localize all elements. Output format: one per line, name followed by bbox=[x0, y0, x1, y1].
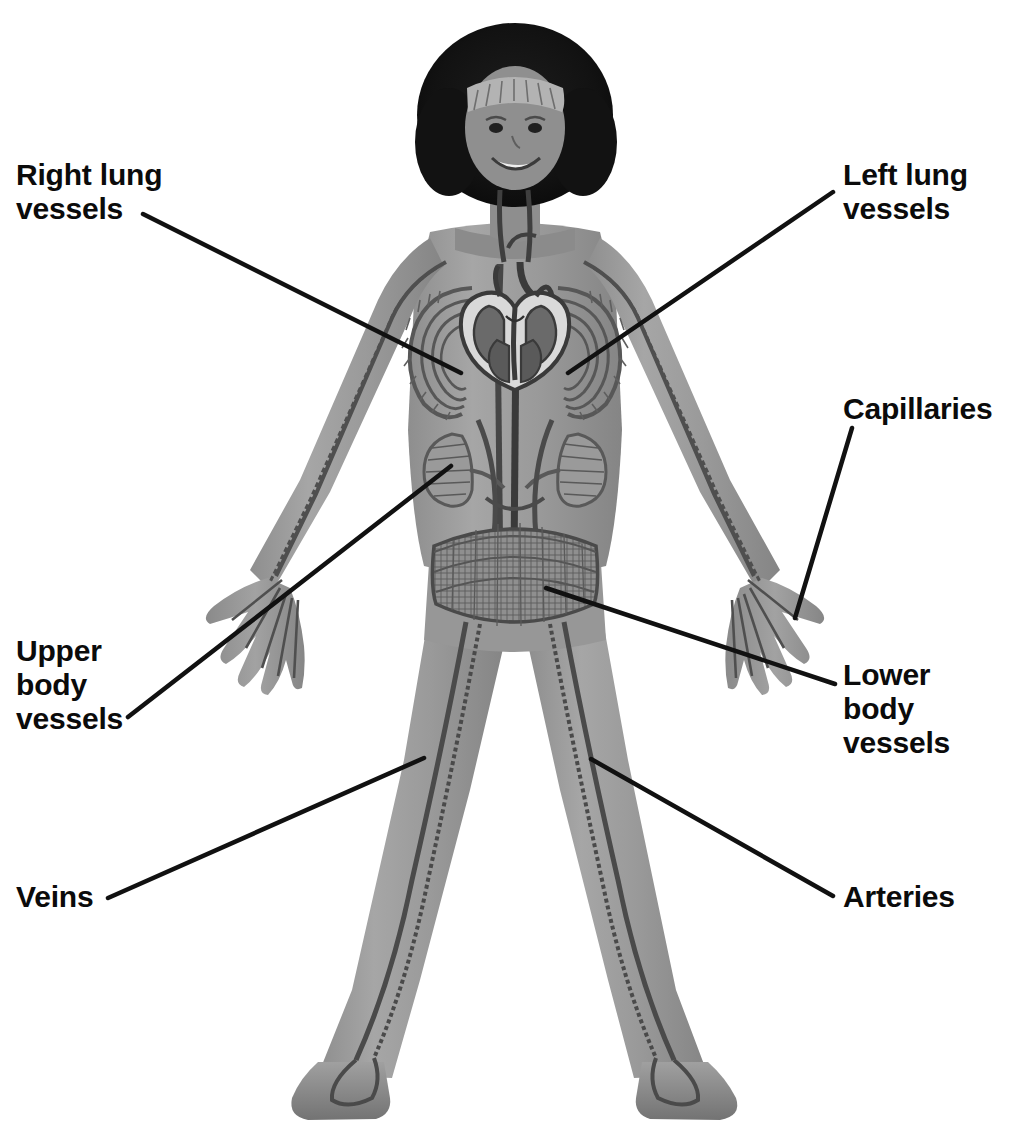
shoes bbox=[291, 1062, 737, 1120]
label-lower-body-vessels: Lower body vessels bbox=[843, 658, 950, 760]
right-hand bbox=[206, 578, 305, 695]
label-veins: Veins bbox=[16, 880, 93, 914]
abdominal-capillary-band bbox=[432, 523, 597, 626]
label-capillaries: Capillaries bbox=[843, 392, 993, 426]
label-right-lung-vessels: Right lung vessels bbox=[16, 158, 162, 226]
right-eye bbox=[528, 123, 542, 133]
veins-leader bbox=[108, 758, 424, 898]
label-upper-body-vessels: Upper body vessels bbox=[16, 634, 123, 736]
capillaries-leader bbox=[795, 428, 852, 618]
label-arteries: Arteries bbox=[843, 880, 955, 914]
circulatory-system-diagram: Right lung vessels Left lung vessels Cap… bbox=[0, 0, 1029, 1143]
left-eye bbox=[489, 123, 503, 133]
head bbox=[415, 23, 617, 207]
label-left-lung-vessels: Left lung vessels bbox=[843, 158, 968, 226]
